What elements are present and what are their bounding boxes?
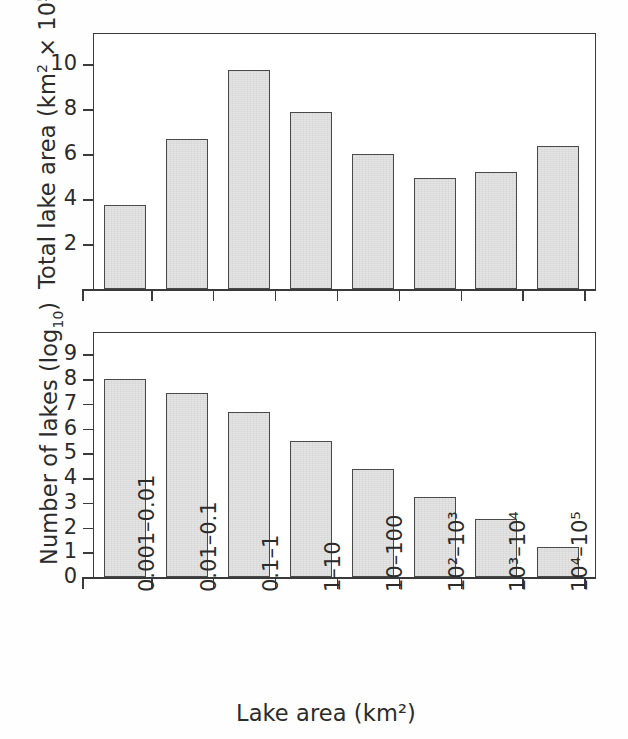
y-tick	[83, 577, 93, 579]
y-tick-label: 6	[41, 143, 77, 164]
y-tick	[83, 379, 93, 381]
bar	[414, 178, 456, 289]
y-tick	[83, 109, 93, 111]
y-tick	[83, 429, 93, 431]
x-tick	[399, 290, 401, 301]
y-tick-label: 0	[41, 566, 77, 587]
y-tick	[83, 154, 93, 156]
x-tick-label: 0.1–1	[259, 535, 283, 592]
y-tick-label: 9	[41, 343, 77, 364]
bar	[290, 112, 332, 289]
y-tick	[83, 478, 93, 480]
y-tick-label: 5	[41, 442, 77, 463]
y-tick-label: 2	[41, 517, 77, 538]
x-axis-label: Lake area (km²)	[236, 700, 416, 726]
y-tick	[83, 453, 93, 455]
bar	[475, 172, 517, 289]
x-tick	[213, 290, 215, 301]
x-axis-line-top	[82, 289, 596, 291]
x-tick-label: 10⁴–10⁵	[568, 511, 592, 592]
y-tick-label: 3	[41, 492, 77, 513]
x-tick	[275, 290, 277, 301]
y-tick-label: 4	[41, 467, 77, 488]
lake-area-figure: Total lake area (km2 × 105) 246810 Numbe…	[0, 0, 628, 739]
bar	[104, 205, 146, 289]
y-tick	[83, 354, 93, 356]
y-tick	[83, 503, 93, 505]
x-tick-label: 10²–10³	[445, 511, 469, 592]
x-tick	[522, 290, 524, 301]
bar	[228, 70, 270, 289]
bar	[352, 154, 394, 289]
x-tick	[461, 290, 463, 301]
x-tick-label: 0.001–0.01	[135, 475, 159, 592]
x-tick-label: 1–10	[321, 541, 345, 592]
y-tick-label: 4	[41, 188, 77, 209]
y-tick	[83, 199, 93, 201]
y-tick	[83, 404, 93, 406]
x-tick	[82, 578, 84, 589]
x-tick-label: 10³–10⁴	[506, 511, 530, 592]
y-tick	[83, 528, 93, 530]
y-tick	[83, 552, 93, 554]
y-tick	[83, 64, 93, 66]
y-tick-label: 2	[41, 233, 77, 254]
x-tick	[151, 290, 153, 301]
x-tick	[584, 290, 586, 301]
bar	[166, 139, 208, 289]
y-tick-label: 8	[41, 98, 77, 119]
x-tick	[82, 290, 84, 301]
y-tick	[83, 244, 93, 246]
y-tick-label: 1	[41, 541, 77, 562]
x-tick	[337, 290, 339, 301]
x-tick-label: 10–100	[383, 515, 407, 592]
bar	[537, 146, 579, 289]
x-tick-label: 0.01–0.1	[197, 501, 221, 592]
y-tick-label: 8	[41, 368, 77, 389]
y-tick-label: 10	[41, 53, 77, 74]
y-tick-label: 7	[41, 393, 77, 414]
y-tick-label: 6	[41, 418, 77, 439]
